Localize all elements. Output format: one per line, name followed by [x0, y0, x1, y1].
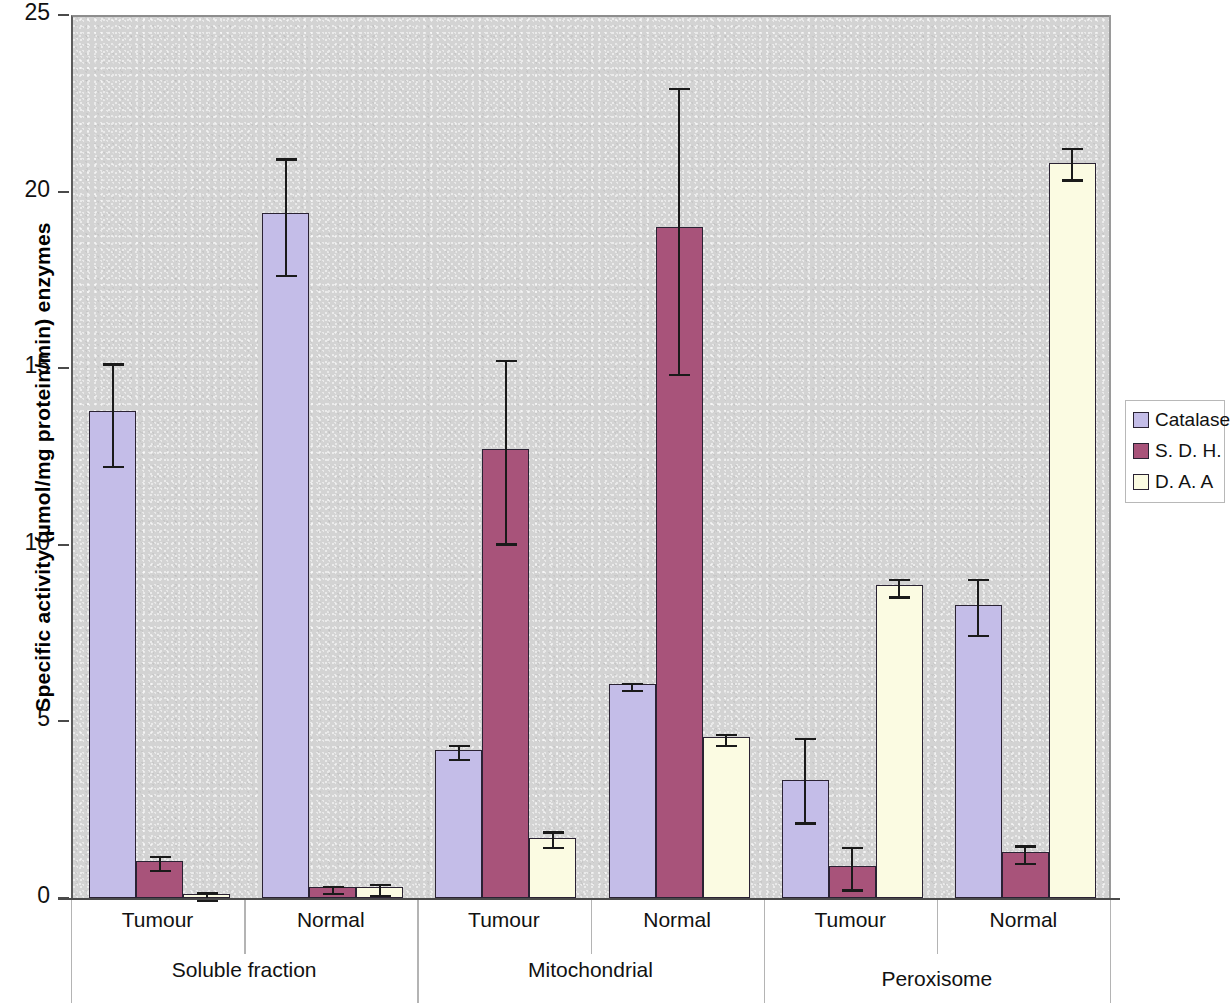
y-tick-mark-25 [58, 14, 69, 16]
legend-item-2[interactable]: D. A. A [1133, 471, 1218, 493]
plot-right-border [1109, 15, 1111, 899]
category-label-5: Normal [937, 908, 1110, 932]
bar-catalase-normal-3[interactable] [609, 684, 656, 898]
y-tick-label-5: 5 [6, 707, 50, 730]
category-edge-tick-1 [1110, 900, 1111, 1003]
legend-label-2: D. A. A [1155, 471, 1213, 493]
category-label-3: Normal [591, 908, 764, 932]
y-tick-label-15: 15 [6, 354, 50, 377]
category-label-2: Tumour [417, 908, 590, 932]
category-label-1: Normal [244, 908, 417, 932]
bar-daa-normal-3[interactable] [703, 737, 750, 898]
bar-catalase-tumour-2[interactable] [435, 750, 482, 898]
category-edge-tick-0 [71, 900, 72, 1003]
legend-item-0[interactable]: Catalase [1133, 409, 1218, 431]
bar-daa-tumour-4[interactable] [876, 585, 923, 898]
category-label-0: Tumour [71, 908, 244, 932]
group-label-1: Mitochondrial [417, 958, 763, 982]
category-separator-5 [937, 900, 938, 954]
y-tick-mark-20 [58, 191, 69, 193]
legend-label-0: Catalase [1155, 409, 1230, 431]
legend-swatch-icon-2 [1133, 474, 1149, 490]
group-separator-1 [417, 900, 418, 1003]
bar-catalase-normal-1[interactable] [262, 213, 309, 898]
bar-catalase-tumour-0[interactable] [89, 411, 136, 898]
y-tick-mark-15 [58, 367, 69, 369]
category-label-4: Tumour [764, 908, 937, 932]
y-tick-label-25: 25 [6, 1, 50, 24]
y-tick-label-0: 0 [6, 884, 50, 907]
x-axis-line [58, 898, 1120, 900]
plot-area [71, 15, 1110, 898]
y-axis-title: Specific activity (µmol/mg protein/min) … [31, 167, 55, 767]
group-label-0: Soluble fraction [71, 958, 417, 982]
chart-legend: CatalaseS. D. H.D. A. A [1125, 400, 1225, 503]
legend-swatch-icon-0 [1133, 412, 1149, 428]
category-separator-1 [244, 900, 245, 954]
legend-swatch-icon-1 [1133, 443, 1149, 459]
group-separator-2 [764, 900, 765, 1003]
y-tick-mark-10 [58, 544, 69, 546]
bar-daa-normal-5[interactable] [1049, 163, 1096, 898]
category-separator-3 [591, 900, 592, 954]
y-tick-mark-5 [58, 720, 69, 722]
bar-catalase-normal-5[interactable] [955, 605, 1002, 898]
y-tick-label-20: 20 [6, 178, 50, 201]
group-label-2: Peroxisome [764, 967, 1110, 991]
y-tick-label-10: 10 [6, 531, 50, 554]
legend-label-1: S. D. H. [1155, 440, 1222, 462]
legend-item-1[interactable]: S. D. H. [1133, 440, 1218, 462]
